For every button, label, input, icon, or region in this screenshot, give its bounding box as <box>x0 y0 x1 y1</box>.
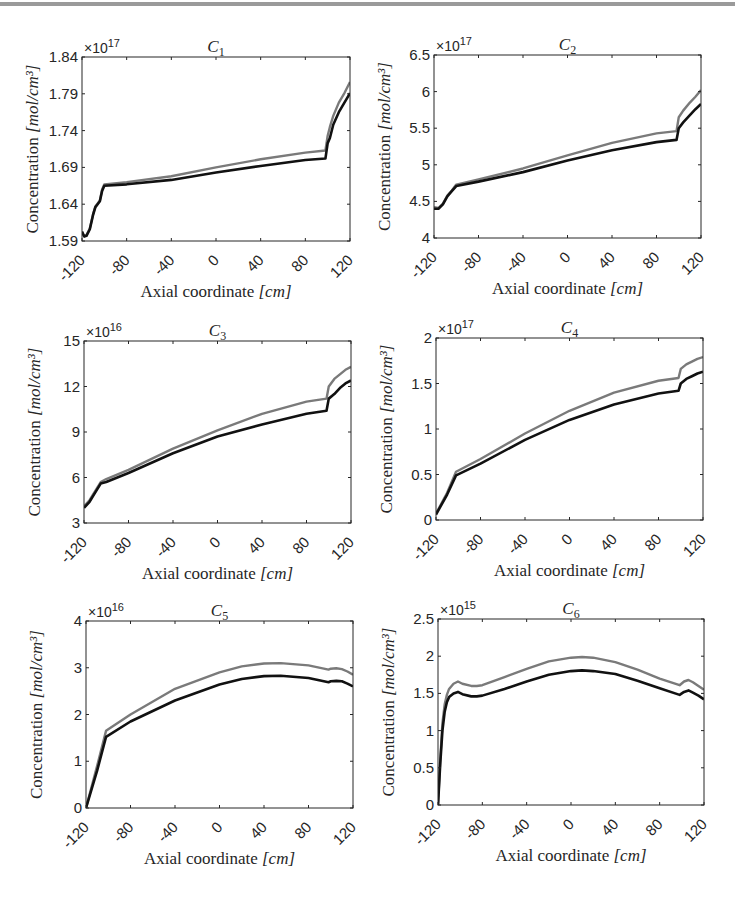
plot-area <box>84 341 351 523</box>
subplot-c3: -120-80-40040801203691215×1016C3Axial co… <box>25 321 357 583</box>
y-tick-label: 1.59 <box>49 232 78 249</box>
x-tick-label: 0 <box>558 530 576 548</box>
y-tick-label: 4 <box>422 229 430 246</box>
y-tick-label: 0 <box>74 799 82 816</box>
y-tick-label: 6.5 <box>409 46 430 63</box>
y-tick-label: 2 <box>74 706 82 723</box>
x-tick-label: 120 <box>680 815 710 845</box>
x-tick-label: 80 <box>291 818 315 842</box>
y-tick-label: 3 <box>72 514 80 531</box>
x-tick-label: 0 <box>206 533 224 551</box>
y-tick-label: 1.79 <box>49 85 78 102</box>
x-tick-label: -40 <box>505 815 532 842</box>
x-tick-label: 40 <box>246 818 270 842</box>
y-tick-label: 5 <box>422 156 430 173</box>
x-axis-label: Axial coordinate [cm] <box>495 846 646 865</box>
x-tick-label: -80 <box>109 818 136 845</box>
y-tick-label: 1.5 <box>413 684 434 701</box>
x-tick-label: 40 <box>243 251 267 275</box>
axis-exponent-label: ×1017 <box>84 37 120 56</box>
x-tick-label: 80 <box>641 530 665 554</box>
plot-area <box>438 619 704 805</box>
x-axis-label: Axial coordinate [cm] <box>140 282 291 301</box>
x-tick-label: 80 <box>288 251 312 275</box>
y-axis-label: Concentration [mol/cm³] <box>23 65 42 234</box>
x-tick-label: -120 <box>411 815 444 848</box>
x-tick-label: 0 <box>556 248 574 266</box>
y-tick-label: 9 <box>72 423 80 440</box>
axis-exponent-label: ×1016 <box>88 601 124 620</box>
x-tick-label: 0 <box>559 815 577 833</box>
x-axis-label: Axial coordinate [cm] <box>144 849 295 868</box>
x-tick-label: 0 <box>208 818 226 836</box>
y-tick-label: 4 <box>74 612 82 629</box>
x-tick-label: 40 <box>594 248 618 272</box>
x-tick-label: -40 <box>502 248 529 275</box>
figure-canvas: -120-80-40040801201.591.641.691.741.791.… <box>0 0 735 899</box>
x-tick-label: -40 <box>504 530 531 557</box>
x-tick-label: 120 <box>677 248 707 278</box>
y-tick-label: 12 <box>63 378 80 395</box>
subplot-title: C4 <box>561 318 578 340</box>
subplot-c1: -120-80-40040801201.591.641.691.741.791.… <box>23 37 356 301</box>
x-tick-label: -80 <box>461 815 488 842</box>
axis-exponent-label: ×1016 <box>86 321 122 340</box>
axis-exponent-label: ×1017 <box>436 35 472 54</box>
y-tick-label: 1.69 <box>49 158 78 175</box>
y-axis-label: Concentration [mol/cm³] <box>377 345 396 514</box>
subplot-title: C5 <box>211 601 228 623</box>
x-tick-label: -120 <box>407 248 440 281</box>
subplot-title: C3 <box>209 321 226 343</box>
subplot-c5: -120-80-400408012001234×1016C5Axial coor… <box>27 601 359 868</box>
x-tick-label: 40 <box>598 815 622 839</box>
y-tick-label: 2 <box>426 647 434 664</box>
x-axis-label: Axial coordinate [cm] <box>494 561 645 580</box>
y-tick-label: 0.5 <box>411 466 432 483</box>
subplot-title: C6 <box>562 599 579 621</box>
x-tick-label: -120 <box>57 533 90 566</box>
x-tick-label: -120 <box>59 818 92 851</box>
y-tick-label: 0 <box>424 511 432 528</box>
plot-area <box>82 57 350 241</box>
x-tick-label: -120 <box>55 251 88 284</box>
y-axis-label: Concentration [mol/cm³] <box>25 348 44 517</box>
subplot-c2: -120-80-400408012044.555.566.5×1017C2Axi… <box>375 35 707 298</box>
x-tick-label: 80 <box>639 248 663 272</box>
y-tick-label: 6 <box>72 469 80 486</box>
x-tick-label: 80 <box>289 533 313 557</box>
y-tick-label: 1 <box>74 752 82 769</box>
y-tick-label: 1.64 <box>49 195 78 212</box>
y-axis-label: Concentration [mol/cm³] <box>379 628 398 797</box>
y-axis-label: Concentration [mol/cm³] <box>375 62 394 231</box>
y-tick-label: 3 <box>74 659 82 676</box>
x-tick-label: -80 <box>105 251 132 278</box>
x-tick-label: -80 <box>459 530 486 557</box>
x-tick-label: 0 <box>204 251 222 269</box>
y-tick-label: 1.84 <box>49 48 78 65</box>
plot-area <box>86 621 353 808</box>
x-tick-label: -80 <box>457 248 484 275</box>
y-axis-label: Concentration [mol/cm³] <box>27 630 46 799</box>
y-tick-label: 1 <box>424 420 432 437</box>
plot-area <box>436 338 703 520</box>
x-tick-label: 120 <box>327 533 357 563</box>
y-tick-label: 6 <box>422 83 430 100</box>
subplot-title: C1 <box>207 37 224 59</box>
x-tick-label: 40 <box>596 530 620 554</box>
x-tick-label: 40 <box>244 533 268 557</box>
y-tick-label: 0 <box>426 796 434 813</box>
subplot-c4: -120-80-400408012000.511.52×1017C4Axial … <box>377 318 709 580</box>
x-tick-label: 80 <box>642 815 666 839</box>
plot-area <box>434 55 701 238</box>
x-tick-label: 120 <box>329 818 359 848</box>
subplot-title: C2 <box>559 35 576 57</box>
y-tick-label: 0.5 <box>413 759 434 776</box>
x-axis-label: Axial coordinate [cm] <box>142 564 293 583</box>
x-tick-label: -80 <box>107 533 134 560</box>
x-tick-label: -40 <box>152 533 179 560</box>
subplot-c6: -120-80-400408012000.511.522.5×1015C6Axi… <box>379 599 710 865</box>
x-tick-label: 120 <box>679 530 709 560</box>
axis-exponent-label: ×1017 <box>438 318 474 337</box>
y-tick-label: 1.5 <box>411 375 432 392</box>
x-axis-label: Axial coordinate [cm] <box>492 279 643 298</box>
